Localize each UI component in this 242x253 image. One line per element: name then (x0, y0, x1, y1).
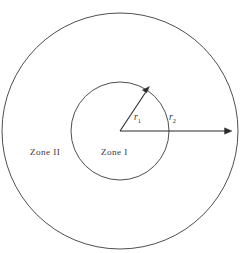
radius-r2-label: r2 (169, 112, 176, 124)
radius-r1-subscript: 1 (138, 117, 141, 124)
radius-r1-line (120, 93, 146, 132)
concentric-zones-diagram: r1 r2 Zone II Zone I (0, 0, 242, 253)
figure-canvas: r1 r2 Zone II Zone I (0, 0, 242, 253)
zone-outer-label: Zone II (30, 147, 60, 157)
radius-r1-label: r1 (134, 112, 141, 124)
radius-r2-arrowhead (225, 128, 233, 134)
radius-r2-subscript: 2 (173, 117, 176, 124)
zone-inner-label: Zone I (101, 147, 128, 157)
